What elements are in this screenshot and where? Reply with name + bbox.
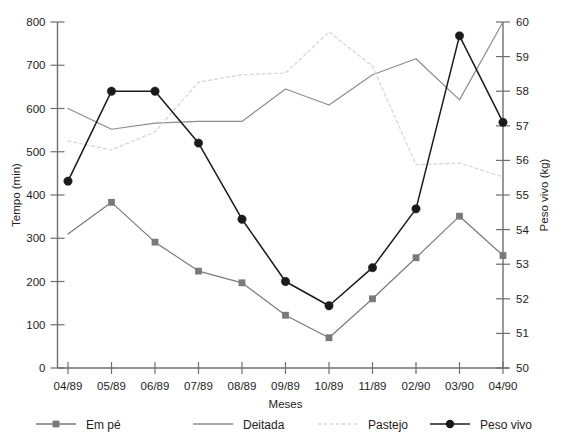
x-axis-tick-label: 07/89 — [184, 380, 213, 392]
y-axis-tick-label: 300 — [26, 232, 45, 244]
data-point-marker — [108, 199, 115, 206]
series-pastejo — [68, 32, 503, 177]
y-axis-tick-label: 200 — [26, 276, 45, 288]
y2-axis-tick-label: 55 — [516, 189, 529, 201]
series-line — [68, 22, 503, 129]
data-point-marker — [325, 302, 333, 310]
line-chart: 0100200300400500600700800505152535455565… — [0, 0, 565, 444]
x-axis-tick-label: 11/89 — [359, 380, 387, 392]
chart-container: 0100200300400500600700800505152535455565… — [0, 0, 565, 444]
y2-axis-tick-label: 59 — [516, 51, 529, 63]
legend-swatch-marker — [53, 421, 60, 428]
y2-axis-tick-label: 54 — [516, 224, 529, 236]
data-point-marker — [412, 205, 420, 213]
y-axis-title: Tempo (min) — [10, 163, 22, 227]
series-group — [64, 22, 507, 341]
legend-item[interactable]: Em pé — [36, 418, 121, 432]
data-point-marker — [239, 279, 246, 286]
y-axis-tick-label: 0 — [39, 362, 45, 374]
data-point-marker — [107, 87, 115, 95]
y2-axis-tick-label: 56 — [516, 154, 529, 166]
x-axis-tick-label: 02/90 — [402, 380, 431, 392]
y-axis-tick-label: 700 — [26, 59, 45, 71]
data-point-marker — [368, 263, 376, 271]
y-axis-tick-label: 400 — [26, 189, 45, 201]
y2-axis-tick-label: 60 — [516, 16, 529, 28]
data-point-marker — [238, 215, 246, 223]
x-axis-tick-label: 06/89 — [141, 380, 170, 392]
data-point-marker — [282, 312, 289, 319]
legend-item-label: Peso vivo — [480, 418, 532, 432]
x-axis-tick-label: 09/89 — [271, 380, 300, 392]
data-point-marker — [281, 277, 289, 285]
data-point-marker — [64, 177, 72, 185]
data-point-marker — [152, 239, 159, 246]
data-point-marker — [194, 139, 202, 147]
series-peso-vivo — [64, 32, 507, 310]
series-line — [68, 32, 503, 177]
x-axis-tick-label: 10/89 — [315, 380, 344, 392]
legend-item[interactable]: Peso vivo — [430, 418, 532, 432]
y-axis-tick-label: 100 — [26, 319, 45, 331]
y2-axis-tick-label: 52 — [516, 293, 529, 305]
y2-axis-tick-label: 57 — [516, 120, 529, 132]
data-point-marker — [455, 32, 463, 40]
y-axis-tick-label: 500 — [26, 146, 45, 158]
legend-item[interactable]: Deitada — [193, 418, 285, 432]
y-axis-tick-label: 800 — [26, 16, 45, 28]
legend-item-label: Em pé — [86, 418, 121, 432]
y2-axis-tick-label: 51 — [516, 327, 529, 339]
legend-item-label: Pastejo — [368, 418, 408, 432]
data-point-marker — [326, 334, 333, 341]
series-em-p — [68, 199, 506, 341]
series-line — [68, 36, 503, 306]
data-point-marker — [369, 295, 376, 302]
x-axis-tick-label: 08/89 — [228, 380, 257, 392]
x-axis-tick-label: 05/89 — [97, 380, 126, 392]
data-point-marker — [151, 87, 159, 95]
data-point-marker — [500, 252, 507, 259]
y-axis-tick-label: 600 — [26, 103, 45, 115]
x-axis-tick-label: 04/90 — [489, 380, 518, 392]
data-point-marker — [499, 118, 507, 126]
legend-item-label: Deitada — [243, 418, 285, 432]
y2-axis-tick-label: 58 — [516, 85, 529, 97]
series-deitada — [68, 22, 503, 129]
data-point-marker — [456, 213, 463, 220]
legend-swatch-marker — [446, 420, 454, 428]
axes-group: 0100200300400500600700800505152535455565… — [10, 16, 550, 410]
x-axis-title: Meses — [269, 398, 303, 410]
y2-axis-tick-label: 53 — [516, 258, 529, 270]
x-axis-tick-label: 03/90 — [445, 380, 474, 392]
legend: Em péDeitadaPastejoPeso vivo — [36, 418, 532, 432]
y2-axis-title: Peso vivo (kg) — [538, 158, 550, 231]
y2-axis-tick-label: 50 — [516, 362, 529, 374]
legend-item[interactable]: Pastejo — [318, 418, 408, 432]
data-point-marker — [195, 268, 202, 275]
x-axis-tick-label: 04/89 — [54, 380, 83, 392]
data-point-marker — [413, 254, 420, 261]
